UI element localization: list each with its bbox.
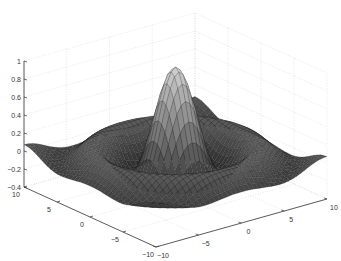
x-tick-label: 0 <box>247 228 251 235</box>
x-tick-label: 10 <box>330 204 338 211</box>
x-tick-label: 5 <box>289 216 293 223</box>
z-tick-label: 0 <box>17 148 21 155</box>
z-tick-label: 0.4 <box>11 112 21 119</box>
x-tick-label: −5 <box>202 240 210 247</box>
z-tick-label: 1 <box>17 58 21 65</box>
y-tick-label: 10 <box>12 191 20 198</box>
surface-plot-figure: 10.80.60.40.20−0.2−0.4 1050−5−10 −10−505… <box>0 0 341 261</box>
z-tick-label: 0.2 <box>11 130 21 137</box>
z-tick-label: 0.8 <box>11 76 21 83</box>
y-tick-label: 5 <box>47 206 51 213</box>
y-tick-label: −5 <box>111 236 119 243</box>
z-tick-label: −0.2 <box>7 166 21 173</box>
sinc-surface <box>24 67 327 208</box>
x-tick-label: −10 <box>157 252 169 259</box>
surface-plot: 10.80.60.40.20−0.2−0.4 1050−5−10 −10−505… <box>0 0 341 261</box>
y-tick-label: −10 <box>142 251 154 258</box>
z-tick-label: 0.6 <box>11 94 21 101</box>
y-tick-label: 0 <box>80 221 84 228</box>
z-tick-label: −0.4 <box>7 184 21 191</box>
